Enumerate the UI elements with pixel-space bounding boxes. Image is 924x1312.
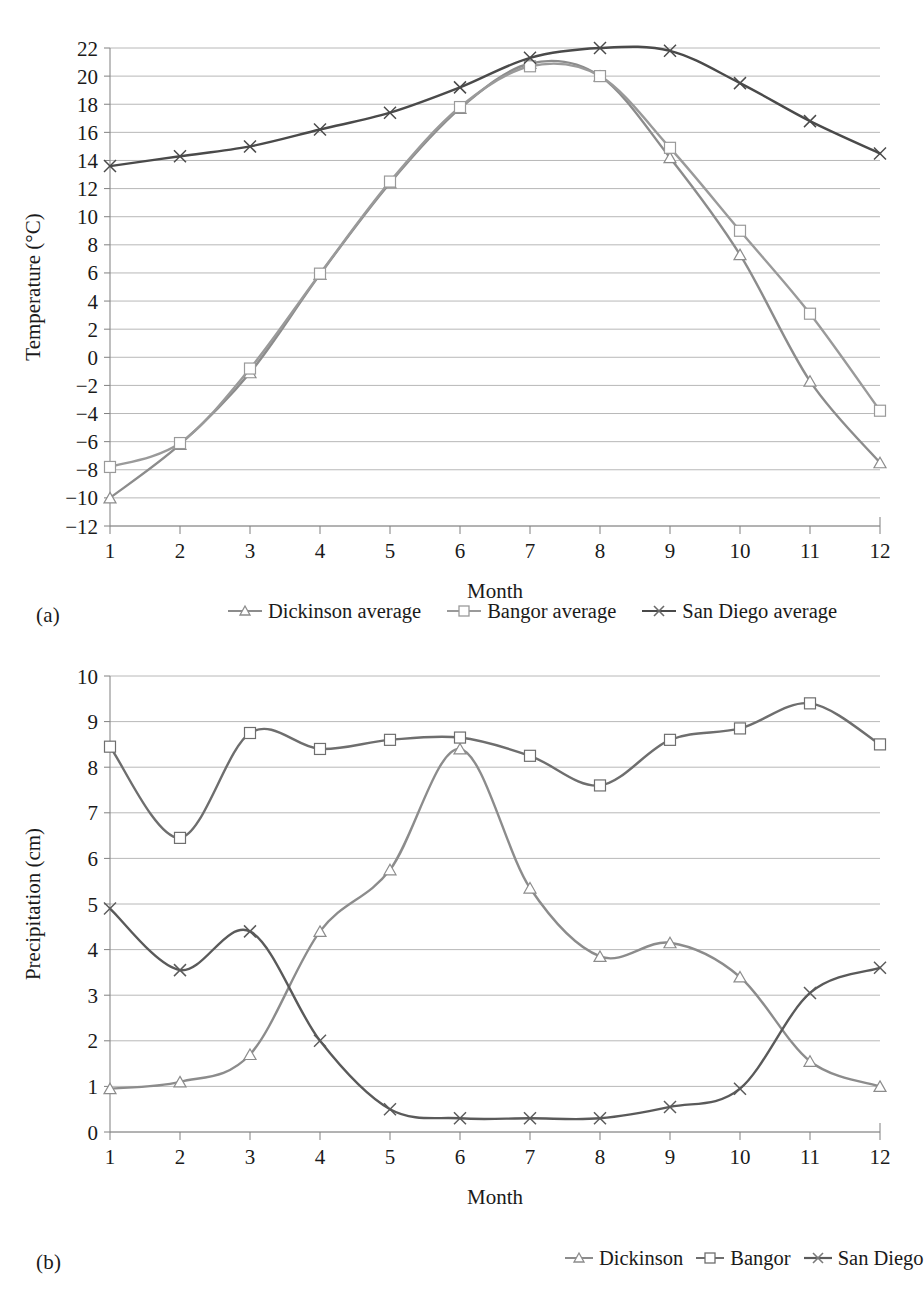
y-tick-label: 4 xyxy=(88,938,99,962)
precipitation-plot-area: 012345678910123456789101112MonthPrecipit… xyxy=(0,648,923,1248)
legend-label: Dickinson average xyxy=(268,601,421,622)
legend-item-dickinson-average[interactable]: Dickinson average xyxy=(228,601,421,622)
legend-label: Dickinson xyxy=(599,1248,683,1269)
x-tick-label: 12 xyxy=(870,1145,891,1169)
y-tick-label: 2 xyxy=(88,318,99,342)
x-tick-label: 6 xyxy=(455,1145,466,1169)
x-tick-label: 9 xyxy=(665,539,676,563)
y-tick-label: 0 xyxy=(88,1121,99,1145)
y-tick-label: −2 xyxy=(76,374,98,398)
y-tick-label: 10 xyxy=(77,665,98,689)
legend-item-san-diego[interactable]: San Diego xyxy=(804,1248,924,1269)
y-axis-title: Precipitation (cm) xyxy=(21,828,45,980)
figure-a-temperature: −12−10−8−6−4−202468101214161820221234567… xyxy=(0,0,923,648)
y-tick-label: 14 xyxy=(77,149,99,173)
y-tick-label: 20 xyxy=(77,65,98,89)
x-tick-label: 2 xyxy=(175,1145,186,1169)
y-tick-label: 6 xyxy=(88,261,99,285)
y-tick-label: −4 xyxy=(76,402,99,426)
x-tick-label: 7 xyxy=(525,1145,536,1169)
y-tick-label: −8 xyxy=(76,458,98,482)
x-tick-label: 3 xyxy=(245,1145,256,1169)
legend-label: San Diego average xyxy=(682,601,837,622)
x-tick-label: 2 xyxy=(175,539,186,563)
legend-item-dickinson[interactable]: Dickinson xyxy=(565,1248,683,1269)
series-bangor xyxy=(105,698,886,844)
x-tick-label: 1 xyxy=(105,539,116,563)
square-marker-icon xyxy=(447,603,481,619)
y-tick-label: 5 xyxy=(88,893,99,917)
cross-marker-icon xyxy=(642,603,676,619)
y-tick-label: 2 xyxy=(88,1029,99,1053)
x-tick-label: 9 xyxy=(665,1145,676,1169)
y-tick-label: 1 xyxy=(88,1075,99,1099)
temperature-plot-area: −12−10−8−6−4−202468101214161820221234567… xyxy=(0,0,923,600)
x-tick-label: 11 xyxy=(800,539,820,563)
y-tick-label: 6 xyxy=(88,847,99,871)
x-tick-label: 5 xyxy=(385,1145,396,1169)
precipitation-chart-svg: 012345678910123456789101112MonthPrecipit… xyxy=(0,648,923,1248)
y-tick-label: 12 xyxy=(77,177,98,201)
y-tick-label: −10 xyxy=(65,486,98,510)
panel-label-a: (a) xyxy=(36,603,60,628)
x-tick-label: 5 xyxy=(385,539,396,563)
cross-marker-icon xyxy=(804,1250,832,1266)
y-tick-label: 10 xyxy=(77,205,98,229)
square-marker-icon xyxy=(696,1250,724,1266)
series-dickinson-average xyxy=(104,58,886,503)
y-tick-label: 9 xyxy=(88,710,99,734)
x-tick-label: 8 xyxy=(595,539,606,563)
legend-label: Bangor xyxy=(730,1248,790,1269)
x-tick-label: 7 xyxy=(525,539,536,563)
temperature-chart-svg: −12−10−8−6−4−202468101214161820221234567… xyxy=(0,0,923,600)
x-tick-label: 10 xyxy=(730,1145,751,1169)
y-tick-label: 7 xyxy=(88,801,99,825)
y-tick-label: 8 xyxy=(88,233,99,257)
y-tick-label: −12 xyxy=(65,515,98,539)
x-tick-label: 6 xyxy=(455,539,466,563)
panel-label-b: (b) xyxy=(36,1250,61,1275)
legend-label: San Diego xyxy=(838,1248,924,1269)
y-tick-label: 0 xyxy=(88,346,99,370)
legend-label: Bangor average xyxy=(487,601,616,622)
y-tick-label: 18 xyxy=(77,93,98,117)
x-tick-label: 4 xyxy=(315,539,326,563)
y-tick-label: 8 xyxy=(88,756,99,780)
legend-item-bangor-average[interactable]: Bangor average xyxy=(447,601,616,622)
legend-temperature: Dickinson average Bangor average San Die… xyxy=(228,601,837,622)
series-bangor-average xyxy=(105,61,886,473)
legend-item-san-diego-average[interactable]: San Diego average xyxy=(642,601,837,622)
triangle-marker-icon xyxy=(228,603,262,619)
x-tick-label: 3 xyxy=(245,539,256,563)
y-tick-label: 4 xyxy=(88,290,99,314)
x-tick-label: 1 xyxy=(105,1145,116,1169)
x-tick-label: 4 xyxy=(315,1145,326,1169)
y-tick-label: 3 xyxy=(88,984,99,1008)
y-tick-label: −6 xyxy=(76,430,98,454)
x-axis-title: Month xyxy=(467,579,524,600)
x-axis-title: Month xyxy=(467,1185,524,1209)
legend-item-bangor[interactable]: Bangor xyxy=(696,1248,790,1269)
y-tick-label: 22 xyxy=(77,37,98,61)
series-san-diego-average xyxy=(104,42,886,172)
legend-precipitation: Dickinson Bangor San Diego xyxy=(565,1248,924,1269)
x-tick-label: 11 xyxy=(800,1145,820,1169)
x-tick-label: 12 xyxy=(870,539,891,563)
x-tick-label: 10 xyxy=(730,539,751,563)
series-san-diego xyxy=(104,903,886,1125)
y-axis-title: Temperature (°C) xyxy=(21,213,45,360)
y-tick-label: 16 xyxy=(77,121,98,145)
x-tick-label: 8 xyxy=(595,1145,606,1169)
figure-b-precipitation: 012345678910123456789101112MonthPrecipit… xyxy=(0,648,923,1312)
triangle-marker-icon xyxy=(565,1250,593,1266)
